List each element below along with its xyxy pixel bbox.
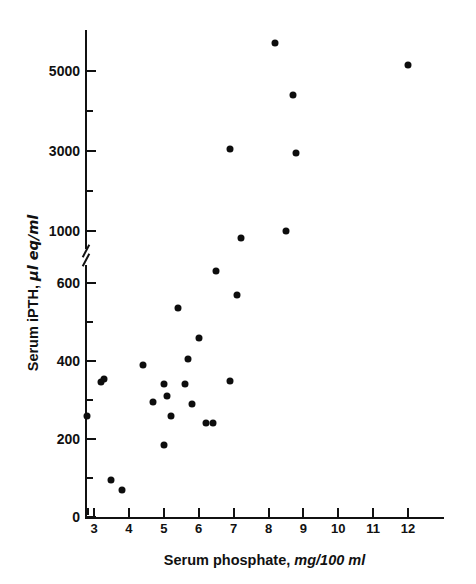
x-tick-major	[198, 508, 200, 518]
data-point	[209, 420, 216, 427]
data-point	[234, 291, 241, 298]
data-point	[108, 476, 115, 483]
x-tick-label: 3	[90, 521, 97, 536]
x-tick-label: 12	[401, 521, 415, 536]
x-tick-major	[302, 508, 304, 518]
data-point	[227, 377, 234, 384]
x-axis-title-main: Serum phosphate,	[164, 552, 291, 568]
y-tick-minor	[87, 399, 93, 401]
data-point	[195, 334, 202, 341]
y-tick-label: 200	[0, 431, 88, 447]
y-tick-label: 1000	[0, 223, 88, 239]
y-tick-minor	[87, 110, 93, 112]
y-tick-major	[87, 230, 96, 232]
x-tick-label: 7	[230, 521, 237, 536]
x-tick-label: 10	[331, 521, 345, 536]
y-tick-label: 400	[0, 353, 88, 369]
x-tick-origin	[87, 508, 89, 515]
x-axis-title-unit: mg/100 ml	[290, 552, 365, 568]
data-point	[118, 486, 125, 493]
data-point	[188, 400, 195, 407]
data-point	[202, 420, 209, 427]
x-tick-label: 9	[300, 521, 307, 536]
data-point	[139, 361, 146, 368]
y-tick-major	[87, 282, 96, 284]
data-point	[167, 412, 174, 419]
y-tick-major	[87, 150, 96, 152]
x-tick-major	[163, 508, 165, 518]
y-tick-label: 3000	[0, 143, 88, 159]
y-axis-title-unit: µl eq/ml	[25, 215, 41, 285]
x-tick-label: 4	[125, 521, 132, 536]
data-point	[213, 268, 220, 275]
x-tick-label: 5	[160, 521, 167, 536]
data-point	[405, 62, 412, 69]
data-point	[101, 375, 108, 382]
y-tick-minor	[87, 190, 93, 192]
scatter-plot-figure: 02004006001000300050003456789101112 Seru…	[0, 0, 476, 584]
y-tick-minor	[87, 321, 93, 323]
y-tick-major	[87, 360, 96, 362]
y-tick-minor	[87, 477, 93, 479]
data-point	[181, 381, 188, 388]
y-tick-label: 5000	[0, 63, 88, 79]
x-tick-major	[233, 508, 235, 518]
data-point	[164, 393, 171, 400]
data-point	[282, 227, 289, 234]
x-tick-major	[93, 508, 95, 518]
x-tick-major	[372, 508, 374, 518]
x-tick-label: 8	[265, 521, 272, 536]
data-point	[150, 398, 157, 405]
x-tick-label: 11	[366, 521, 380, 536]
x-tick-major	[128, 508, 130, 518]
data-point	[272, 40, 279, 47]
x-axis-title: Serum phosphate, mg/100 ml	[85, 552, 444, 568]
x-tick-major	[337, 508, 339, 518]
data-point	[227, 146, 234, 153]
data-point	[84, 412, 91, 419]
y-tick-major	[87, 438, 96, 440]
data-point	[237, 234, 244, 241]
data-point	[174, 305, 181, 312]
data-point	[289, 92, 296, 99]
x-tick-label: 6	[195, 521, 202, 536]
y-tick-major	[87, 70, 96, 72]
x-axis-line	[85, 517, 444, 519]
data-point	[160, 381, 167, 388]
y-tick-label: 600	[0, 275, 88, 291]
y-axis-title-main: Serum iPTH,	[25, 285, 41, 371]
data-point	[160, 441, 167, 448]
x-tick-major	[268, 508, 270, 518]
y-axis-title: Serum iPTH, µl eq/ml	[25, 198, 41, 388]
data-point	[185, 356, 192, 363]
y-tick-label: 0	[0, 509, 88, 525]
x-tick-major	[407, 508, 409, 518]
data-point	[293, 150, 300, 157]
